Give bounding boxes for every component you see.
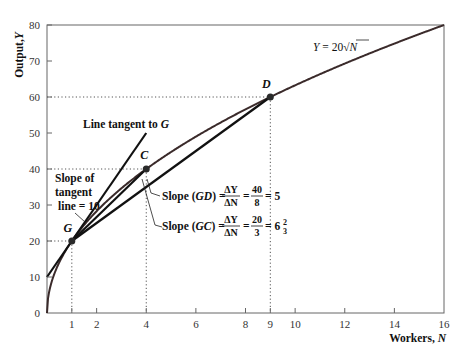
y-axis-title: Output,Y: [13, 31, 26, 78]
x-tick-label: 4: [144, 318, 150, 330]
plot-series: [47, 25, 444, 313]
production-function-curve: [47, 25, 444, 313]
svg-text:2: 2: [283, 218, 287, 227]
svg-text:ΔN: ΔN: [224, 227, 238, 238]
svg-text:8: 8: [255, 197, 260, 208]
svg-text:20: 20: [252, 214, 262, 225]
point-D: [267, 94, 274, 101]
x-tick-label: 1: [69, 318, 75, 330]
svg-text:ΔY: ΔY: [224, 214, 238, 225]
point-label-D: D: [261, 77, 271, 91]
y-tick-label: 80: [29, 19, 41, 31]
svg-text:=: =: [243, 220, 250, 232]
x-tick-label: 9: [268, 318, 274, 330]
curve-label: Y = 20√N: [313, 41, 358, 53]
slope-gd-label: Slope (GD) = ΔY ΔN = 40 8 = 5: [162, 184, 280, 208]
x-tick-label: 14: [389, 318, 401, 330]
plot-frame: [47, 25, 444, 313]
svg-text:Slope (GC) =: Slope (GC) =: [162, 220, 225, 233]
x-tick-label: 6: [193, 318, 199, 330]
point-label-C: C: [140, 148, 149, 162]
y-tick-label: 10: [29, 271, 41, 283]
y-tick-label: 20: [29, 235, 41, 247]
svg-text:3: 3: [255, 227, 260, 238]
svg-text:3: 3: [283, 227, 287, 236]
svg-text:ΔN: ΔN: [224, 197, 238, 208]
x-axis-title: Workers, N: [389, 332, 447, 344]
y-tick-label: 0: [35, 307, 41, 319]
tangent-slope-leader: [75, 213, 85, 222]
point-label-G: G: [63, 221, 72, 235]
y-tick-label: 60: [29, 91, 41, 103]
tangent-line-label: Line tangent to G: [83, 118, 170, 131]
y-tick-label: 50: [29, 127, 41, 139]
y-tick-label: 40: [29, 163, 41, 175]
x-tick-label: 8: [243, 318, 249, 330]
slope-gc-leader: [142, 179, 162, 227]
plot-border: [47, 25, 444, 313]
x-tick-label: 2: [94, 318, 100, 330]
y-tick-label: 70: [29, 55, 41, 67]
x-tick-label: 12: [339, 318, 350, 330]
point-G: [68, 238, 75, 245]
svg-text:ΔY: ΔY: [224, 184, 238, 195]
x-tick-label: 10: [290, 318, 302, 330]
svg-text:= 5: = 5: [265, 190, 280, 202]
x-tick-label: 16: [439, 318, 451, 330]
production-function-chart: 0102030405060708012468910121416 GCD Outp…: [0, 0, 467, 357]
slope-gc-label: Slope (GC) = ΔY ΔN = 20 3 = 6 2 3: [162, 214, 287, 238]
point-C: [143, 166, 150, 173]
svg-text:=: =: [243, 190, 250, 202]
y-tick-label: 30: [29, 199, 41, 211]
svg-text:= 6: = 6: [265, 220, 280, 232]
tangent-slope-label: Slope of tangent line = 10: [55, 172, 100, 212]
svg-text:Slope (GD) =: Slope (GD) =: [162, 190, 225, 203]
svg-text:40: 40: [252, 184, 262, 195]
